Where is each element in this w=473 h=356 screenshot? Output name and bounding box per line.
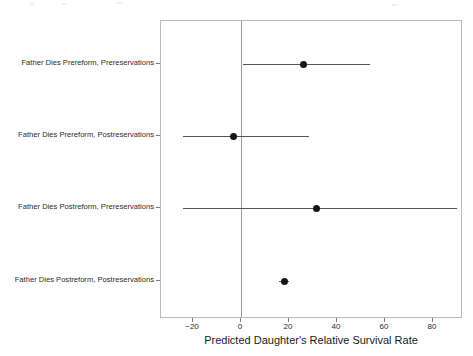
plot-area [160,20,462,318]
point-estimate-marker [281,278,288,285]
confidence-interval-bar [183,208,457,209]
confidence-interval-bar [243,64,370,65]
y-axis-label-row-1: Father Dies Prereform, Prereservations [0,59,154,67]
scan-speckle [392,4,397,6]
confidence-interval-row-2 [161,136,461,137]
scan-speckle [62,3,67,5]
x-axis-tick-label-40: 40 [332,323,341,331]
coefficient-plot-figure: Father Dies Prereform, Prereservations F… [0,0,473,356]
point-estimate-marker [230,133,237,140]
x-axis-tick-label--20: −20 [185,323,199,331]
confidence-interval-row-4 [161,281,461,282]
confidence-interval-bar [183,136,309,137]
x-axis-title: Predicted Daughter's Relative Survival R… [160,335,462,346]
x-axis-tick-label-0: 0 [238,323,242,331]
y-axis-label-row-3: Father Dies Postreform, Prereservations [0,203,154,211]
x-axis-tick-label-60: 60 [380,323,389,331]
scan-speckle [116,2,122,4]
x-axis-tick-label-20: 20 [284,323,293,331]
y-axis-label-row-4: Father Dies Postreform, Postreservations [0,276,154,284]
zero-reference-line [241,21,242,317]
confidence-interval-row-1 [161,64,461,65]
scan-speckle [30,2,34,5]
y-axis-label-row-2: Father Dies Prereform, Postreservations [0,131,154,139]
point-estimate-marker [313,205,320,212]
point-estimate-marker [300,61,307,68]
confidence-interval-row-3 [161,208,461,209]
x-axis-tick-label-80: 80 [428,323,437,331]
